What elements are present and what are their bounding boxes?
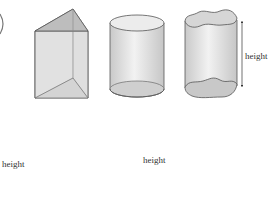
triangular-prism bbox=[35, 9, 88, 98]
right-cylinder bbox=[110, 15, 164, 97]
height-label-wavy-cylinder: height bbox=[245, 51, 268, 61]
wavy-cylinder bbox=[185, 10, 242, 98]
height-label-oblique-cylinder: height bbox=[143, 155, 166, 165]
part-marker bbox=[0, 14, 3, 34]
height-label-oblique-prism: height bbox=[2, 159, 25, 169]
solids-diagram bbox=[0, 0, 276, 202]
